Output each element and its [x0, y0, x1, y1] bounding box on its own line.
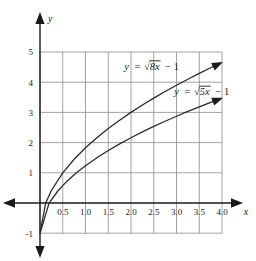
curve-sqrt-5x-arrow-icon	[211, 98, 223, 106]
x-tick-label-2.5: 2.5	[148, 207, 160, 217]
label-curve-5x-text: y = √5x − 1	[173, 86, 229, 97]
x-tick-label-1.5: 1.5	[103, 207, 115, 217]
y-axis-down-arrow-icon	[35, 246, 44, 258]
y-axis-tick-labels: 54321-1	[26, 47, 34, 238]
axes	[3, 12, 243, 258]
graph-figure: 0.51.01.52.02.53.03.54.0 54321-1 x y y =…	[0, 0, 256, 261]
y-tick-label-5: 5	[29, 47, 34, 57]
x-axis-right-arrow-icon	[231, 198, 243, 208]
y-tick-label-2: 2	[29, 138, 34, 148]
x-tick-label-2.0: 2.0	[125, 207, 137, 217]
curve-sqrt-8x-arrow-icon	[211, 62, 223, 71]
label-curve-8x: y = √8x − 1	[123, 61, 179, 72]
x-axis-tick-labels: 0.51.01.52.02.53.03.54.0	[57, 207, 228, 217]
y-tick-label-3: 3	[29, 108, 34, 118]
y-tick-label-neg1: -1	[26, 229, 34, 239]
label-curve-5x: y = √5x − 1	[173, 86, 229, 97]
y-axis-name: y	[47, 13, 53, 24]
y-axis-up-arrow-icon	[35, 12, 44, 24]
y-tick-label-1: 1	[29, 168, 34, 178]
x-axis-name: x	[243, 206, 249, 217]
x-tick-label-4.0: 4.0	[216, 207, 228, 217]
coordinate-plane-svg: 0.51.01.52.02.53.03.54.0 54321-1 x y y =…	[0, 0, 256, 261]
x-tick-label-3.0: 3.0	[171, 207, 183, 217]
x-tick-label-1.0: 1.0	[80, 207, 92, 217]
label-curve-8x-text: y = √8x − 1	[123, 61, 179, 72]
x-tick-label-3.5: 3.5	[194, 207, 206, 217]
y-tick-label-4: 4	[29, 78, 34, 88]
x-axis-left-arrow-icon	[3, 198, 15, 208]
x-tick-label-0.5: 0.5	[57, 207, 69, 217]
